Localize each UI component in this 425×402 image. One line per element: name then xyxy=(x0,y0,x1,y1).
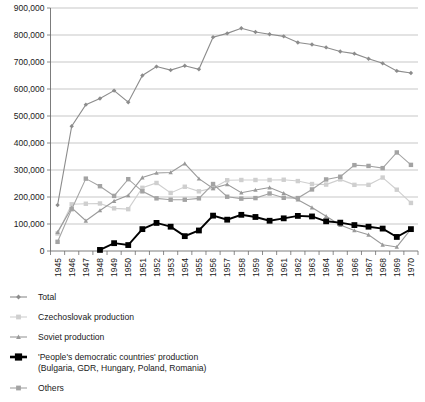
y-axis-tick-label: 400,000 xyxy=(14,138,45,148)
data-point-marker xyxy=(84,202,88,206)
data-point-marker xyxy=(139,226,145,232)
x-axis-tick-label: 1966 xyxy=(350,258,360,277)
x-axis-tick-label: 1962 xyxy=(293,258,303,277)
x-axis-tick-label: 1960 xyxy=(265,258,275,277)
legend-square-marker xyxy=(15,353,22,360)
x-axis-tick-label: 1950 xyxy=(123,258,133,277)
data-point-marker xyxy=(351,222,357,228)
chart-figure: 0100,000200,000300,000400,000500,000600,… xyxy=(0,0,425,402)
y-axis-tick-label: 200,000 xyxy=(14,192,45,202)
y-axis-tick-label: 0 xyxy=(40,246,45,256)
data-point-marker xyxy=(394,234,400,240)
legend-label: 'People's democratic countries' producti… xyxy=(38,352,198,362)
x-axis-tick-label: 1954 xyxy=(180,258,190,277)
data-point-marker xyxy=(324,182,328,186)
x-axis-tick-label: 1945 xyxy=(53,258,63,277)
data-point-marker xyxy=(253,178,257,182)
data-point-marker xyxy=(395,188,399,192)
x-axis-tick-label: 1953 xyxy=(166,258,176,277)
data-point-marker xyxy=(408,226,414,232)
x-axis-tick-label: 1961 xyxy=(279,258,289,277)
data-point-marker xyxy=(84,176,88,180)
data-point-marker xyxy=(267,191,271,195)
data-point-marker xyxy=(168,191,172,195)
data-point-marker xyxy=(267,178,271,182)
data-point-marker xyxy=(197,189,201,193)
data-point-marker xyxy=(168,224,174,230)
data-point-marker xyxy=(295,213,301,219)
data-point-marker xyxy=(197,196,201,200)
y-axis-tick-label: 600,000 xyxy=(14,84,45,94)
data-point-marker xyxy=(210,213,216,219)
y-axis-tick-label: 500,000 xyxy=(14,111,45,121)
x-axis-tick-label: 1952 xyxy=(152,258,162,277)
y-axis-tick-label: 800,000 xyxy=(14,30,45,40)
data-point-marker xyxy=(282,196,286,200)
data-point-marker xyxy=(310,187,314,191)
x-axis-tick-label: 1949 xyxy=(109,258,119,277)
data-point-marker xyxy=(168,198,172,202)
data-point-marker xyxy=(253,196,257,200)
x-axis-tick-label: 1963 xyxy=(307,258,317,277)
data-point-marker xyxy=(310,182,314,186)
data-point-marker xyxy=(281,215,287,221)
data-point-marker xyxy=(296,196,300,200)
legend-label: Czechoslovak production xyxy=(38,312,134,322)
data-point-marker xyxy=(338,175,342,179)
x-axis-tick-label: 1967 xyxy=(364,258,374,277)
data-point-marker xyxy=(267,218,273,224)
data-point-marker xyxy=(225,195,229,199)
data-point-marker xyxy=(154,181,158,185)
data-point-marker xyxy=(409,201,413,205)
data-point-marker xyxy=(309,214,315,220)
legend-label-secondary: (Bulgaria, GDR, Hungary, Poland, Romania… xyxy=(38,363,207,373)
data-point-marker xyxy=(126,207,130,211)
y-axis-tick-label: 700,000 xyxy=(14,57,45,67)
data-point-marker xyxy=(126,177,130,181)
data-point-marker xyxy=(183,185,187,189)
data-point-marker xyxy=(154,220,160,226)
data-point-marker xyxy=(239,196,243,200)
data-point-marker xyxy=(140,189,144,193)
x-axis-tick-label: 1948 xyxy=(95,258,105,277)
data-point-marker xyxy=(211,182,215,186)
data-point-marker xyxy=(224,217,230,223)
x-axis-tick-label: 1947 xyxy=(81,258,91,277)
y-axis-tick-label: 300,000 xyxy=(14,165,45,175)
y-axis-tick-label: 100,000 xyxy=(14,219,45,229)
data-point-marker xyxy=(366,183,370,187)
data-point-marker xyxy=(296,179,300,183)
x-axis-tick-label: 1956 xyxy=(208,258,218,277)
data-point-marker xyxy=(323,218,329,224)
data-point-marker xyxy=(97,247,103,253)
data-point-marker xyxy=(112,206,116,210)
data-point-marker xyxy=(111,240,117,246)
y-axis-tick-label: 900,000 xyxy=(14,3,45,13)
x-axis-tick-label: 1955 xyxy=(194,258,204,277)
x-axis-tick-label: 1957 xyxy=(222,258,232,277)
data-point-marker xyxy=(366,224,372,230)
legend-label: Others xyxy=(38,383,64,393)
data-point-marker xyxy=(55,240,59,244)
data-point-marker xyxy=(196,228,202,234)
data-point-marker xyxy=(225,178,229,182)
data-point-marker xyxy=(395,150,399,154)
data-point-marker xyxy=(380,166,384,170)
line-chart-canvas: 0100,000200,000300,000400,000500,000600,… xyxy=(0,0,425,402)
data-point-marker xyxy=(380,226,386,232)
data-point-marker xyxy=(366,164,370,168)
x-axis-tick-label: 1946 xyxy=(67,258,77,277)
data-point-marker xyxy=(70,207,74,211)
x-axis-tick-label: 1964 xyxy=(321,258,331,277)
x-axis-tick-label: 1951 xyxy=(138,258,148,277)
data-point-marker xyxy=(112,194,116,198)
legend-label: Soviet production xyxy=(38,332,105,342)
data-point-marker xyxy=(154,196,158,200)
data-point-marker xyxy=(239,178,243,182)
data-point-marker xyxy=(98,184,102,188)
data-point-marker xyxy=(337,220,343,226)
data-point-marker xyxy=(352,163,356,167)
x-axis-tick-label: 1958 xyxy=(237,258,247,277)
data-point-marker xyxy=(183,198,187,202)
data-point-marker xyxy=(380,175,384,179)
